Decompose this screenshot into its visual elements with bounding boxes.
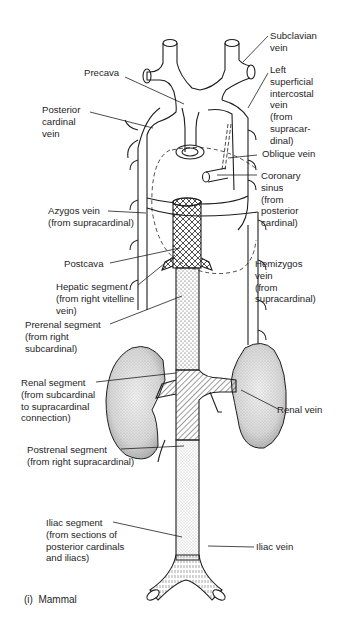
label-postrenal-segment: Postrenal segment (from right supracardi… <box>27 444 134 468</box>
label-iliac-segment: Iliac segment (from sections of posterio… <box>46 517 124 564</box>
postcava <box>145 198 236 602</box>
label-renal-segment: Renal segment (from subcardinal to supra… <box>21 377 95 424</box>
label-coronary-sinus: Coronary sinus (from posterior cardinal) <box>261 170 300 229</box>
hepatic-segment-shape <box>173 202 201 268</box>
label-postcava: Postcava <box>64 258 103 270</box>
label-prerenal-segment: Prerenal segment (from right subcardinal… <box>25 319 101 354</box>
figure-caption: (i) Mammal <box>24 594 77 605</box>
label-oblique-vein: Oblique vein <box>262 148 315 160</box>
label-left-superficial-intercostal-vein: Left superficial intercostal vein (from … <box>270 64 314 147</box>
label-iliac-vein: Iliac vein <box>256 541 293 553</box>
label-subclavian-vein: Subclavian vein <box>270 30 317 54</box>
label-precava: Precava <box>84 67 119 79</box>
label-renal-vein: Renal vein <box>277 404 322 416</box>
label-hepatic-segment: Hepatic segment (from right vitelline ve… <box>56 281 134 316</box>
label-azygos-vein: Azygos vein (from supracardinal) <box>48 205 134 229</box>
label-hemizygos-vein: Hemizygos vein (from supracardinal) <box>255 258 316 305</box>
label-posterior-cardinal-vein: Posterior cardinal vein <box>42 104 80 139</box>
